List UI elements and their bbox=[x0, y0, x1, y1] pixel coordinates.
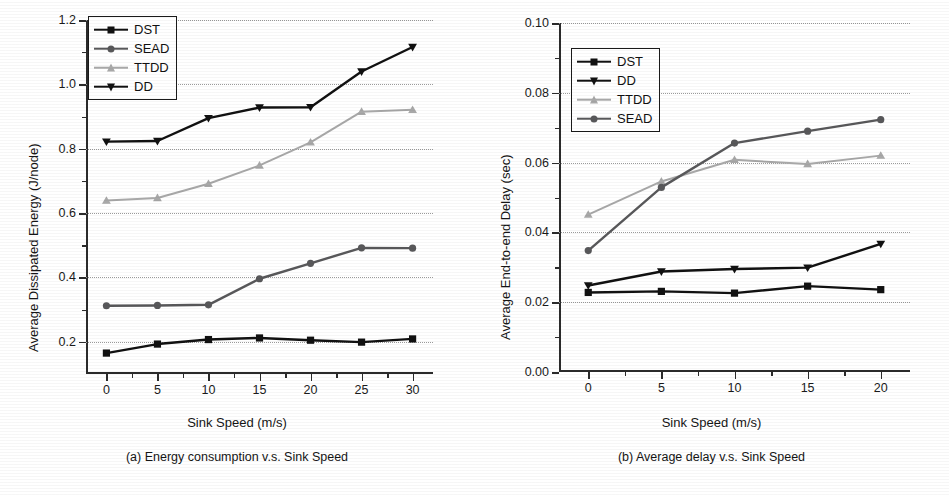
x-axis-title-b: Sink Speed (m/s) bbox=[474, 415, 949, 430]
y-axis-tick bbox=[552, 23, 559, 25]
y-axis-tick bbox=[552, 302, 559, 304]
y-axis-tick bbox=[79, 342, 86, 344]
caption-a: (a) Energy consumption v.s. Sink Speed bbox=[0, 450, 474, 464]
x-axis-tick bbox=[735, 372, 737, 379]
legend-item-ttdd[interactable]: TTDD bbox=[577, 91, 652, 108]
legend-item-sead[interactable]: SEAD bbox=[577, 110, 652, 127]
legend-item-sead[interactable]: SEAD bbox=[94, 40, 169, 57]
legend-label-dd: DD bbox=[134, 80, 153, 93]
triangle-up-marker-icon bbox=[107, 63, 115, 71]
x-axis-tick bbox=[362, 374, 364, 381]
chart-panel-b: Average End-to-end Delay (sec) 0.000.020… bbox=[474, 0, 949, 495]
square-marker-icon bbox=[877, 286, 884, 293]
legend-swatch-dd bbox=[94, 80, 128, 94]
x-axis-tick bbox=[311, 374, 313, 381]
legend-item-dst[interactable]: DST bbox=[94, 21, 169, 38]
x-axis-minor-tick bbox=[234, 374, 236, 378]
triangle-down-marker-icon bbox=[107, 83, 115, 91]
legend-item-dd[interactable]: DD bbox=[94, 78, 169, 95]
x-axis-minor-tick bbox=[132, 374, 134, 378]
series-line bbox=[588, 120, 881, 251]
legend-swatch-ttdd bbox=[94, 61, 128, 75]
y-axis-tick-label: 1.0 bbox=[59, 77, 76, 91]
square-marker-icon bbox=[585, 289, 592, 296]
circle-marker-icon bbox=[103, 302, 110, 309]
square-marker-icon bbox=[256, 334, 263, 341]
caption-b: (b) Average delay v.s. Sink Speed bbox=[474, 450, 949, 464]
x-axis-tick-label: 0 bbox=[103, 383, 110, 397]
square-marker-icon bbox=[154, 340, 161, 347]
series-ttdd bbox=[584, 151, 885, 218]
x-axis-tick bbox=[661, 372, 663, 379]
x-axis-tick-label: 10 bbox=[728, 381, 742, 395]
y-axis-tick bbox=[79, 213, 86, 215]
y-axis-tick-label: 0.04 bbox=[525, 225, 549, 239]
square-marker-icon bbox=[731, 290, 738, 297]
x-axis-minor-tick bbox=[387, 374, 389, 378]
figure-container: Average Dissipated Energy (J/node) 0.20.… bbox=[0, 0, 949, 495]
y-axis-tick-label: 0.2 bbox=[59, 335, 76, 349]
legend-b[interactable]: DST DD TTDD SE bbox=[571, 48, 660, 132]
x-axis-minor-tick bbox=[183, 374, 185, 378]
circle-marker-icon bbox=[731, 139, 738, 146]
legend-item-ttdd[interactable]: TTDD bbox=[94, 59, 169, 76]
legend-swatch-ttdd bbox=[577, 93, 611, 107]
x-axis-tick bbox=[260, 374, 262, 381]
legend-item-dd[interactable]: DD bbox=[577, 72, 652, 89]
series-dst bbox=[103, 334, 416, 356]
square-marker-icon bbox=[205, 336, 212, 343]
square-marker-icon bbox=[409, 335, 416, 342]
circle-marker-icon bbox=[409, 245, 416, 252]
x-axis-tick bbox=[208, 374, 210, 381]
x-axis-tick-label: 25 bbox=[355, 383, 369, 397]
legend-item-dst[interactable]: DST bbox=[577, 53, 652, 70]
legend-label-dst: DST bbox=[617, 55, 643, 68]
y-axis-tick-label: 1.2 bbox=[59, 13, 76, 27]
legend-label-dst: DST bbox=[134, 23, 160, 36]
y-axis-tick-label: 0.00 bbox=[525, 365, 549, 379]
triangle-up-marker-icon bbox=[590, 95, 598, 103]
x-axis-tick bbox=[588, 372, 590, 379]
chart-panel-a: Average Dissipated Energy (J/node) 0.20.… bbox=[0, 0, 474, 495]
legend-a[interactable]: DST SEAD TTDD bbox=[88, 16, 177, 100]
y-axis-tick bbox=[552, 163, 559, 165]
x-axis-tick bbox=[413, 374, 415, 381]
square-marker-icon bbox=[804, 283, 811, 290]
series-dd bbox=[584, 241, 885, 290]
y-axis-tick bbox=[79, 20, 86, 22]
x-axis-title-a: Sink Speed (m/s) bbox=[0, 415, 474, 430]
x-axis-tick-label: 10 bbox=[202, 383, 216, 397]
y-axis-tick bbox=[79, 149, 86, 151]
y-axis-tick-label: 0.8 bbox=[59, 142, 76, 156]
circle-marker-icon bbox=[591, 115, 598, 122]
legend-swatch-dst bbox=[577, 55, 611, 69]
series-sead bbox=[585, 116, 885, 254]
series-line bbox=[588, 156, 881, 215]
triangle-up-marker-icon bbox=[306, 138, 315, 146]
x-axis-tick-label: 5 bbox=[154, 383, 161, 397]
circle-marker-icon bbox=[658, 184, 665, 191]
x-axis-tick-label: 5 bbox=[658, 381, 665, 395]
x-axis-minor-tick bbox=[698, 372, 700, 376]
legend-label-ttdd: TTDD bbox=[617, 93, 652, 106]
circle-marker-icon bbox=[256, 275, 263, 282]
x-axis-tick bbox=[106, 374, 108, 381]
circle-marker-icon bbox=[205, 301, 212, 308]
x-axis-tick bbox=[808, 372, 810, 379]
square-marker-icon bbox=[103, 349, 110, 356]
square-marker-icon bbox=[358, 339, 365, 346]
triangle-down-marker-icon bbox=[590, 77, 598, 85]
y-axis-tick bbox=[552, 93, 559, 95]
y-axis-tick-label: 0.08 bbox=[525, 86, 549, 100]
legend-swatch-sead bbox=[577, 112, 611, 126]
x-axis-minor-tick bbox=[285, 374, 287, 378]
series-ttdd bbox=[102, 105, 417, 203]
circle-marker-icon bbox=[108, 45, 115, 52]
y-axis-tick-label: 0.02 bbox=[525, 295, 549, 309]
legend-label-dd: DD bbox=[617, 74, 636, 87]
x-axis-tick bbox=[881, 372, 883, 379]
square-marker-icon bbox=[108, 26, 115, 33]
circle-marker-icon bbox=[307, 260, 314, 267]
legend-label-sead: SEAD bbox=[134, 42, 169, 55]
x-axis-tick bbox=[157, 374, 159, 381]
